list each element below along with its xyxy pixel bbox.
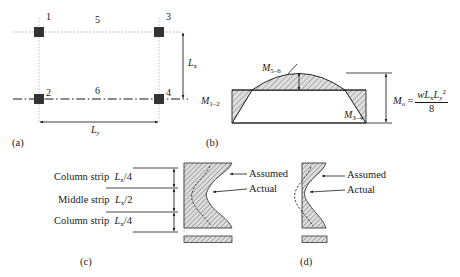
- moment-label-m12: M1–2: [201, 96, 220, 108]
- strip-name: Column strip: [54, 215, 109, 226]
- leader-actual-d: [310, 190, 345, 192]
- strip-label-6: 6: [95, 86, 100, 96]
- figure-canvas: [0, 0, 460, 277]
- annotation-assumed-c: Assumed: [249, 169, 288, 180]
- node-3-marker: [154, 27, 164, 37]
- panel-caption-b: (b): [206, 137, 218, 148]
- dimension-label-ly: Ly: [91, 125, 100, 137]
- strip-name: Column strip: [54, 171, 109, 182]
- strip-row-column-bottom: Column strip Lx/4: [54, 216, 132, 228]
- panel-caption-c: (c): [80, 256, 92, 267]
- moment-label-m34: M3–4: [344, 110, 363, 122]
- strip-name: Middle strip: [58, 194, 110, 205]
- strip-row-middle: Middle strip Lx/2: [58, 195, 132, 207]
- annotation-actual-d: Actual: [347, 185, 375, 196]
- support-bar-d: [302, 236, 327, 243]
- moment-region-parabola: [252, 74, 345, 91]
- node-label-4: 4: [166, 88, 171, 98]
- node-4-marker: [154, 94, 164, 104]
- node-label-3: 3: [166, 12, 171, 22]
- panel-b-graphics: [232, 64, 392, 123]
- distribution-shape-d: [302, 163, 326, 228]
- node-1-marker: [34, 27, 44, 37]
- annotation-assumed-d: Assumed: [347, 170, 386, 181]
- node-label-2: 2: [46, 88, 51, 98]
- strip-row-column-top: Column strip Lx/4: [54, 172, 132, 184]
- engineering-figure: 1 2 3 4 5 6 Lx Ly M1–2 M5–6 M3–4 Mo=wLxL…: [0, 0, 460, 277]
- equation-denominator: 8: [415, 103, 448, 114]
- moment-label-m56: M5–6: [262, 63, 281, 75]
- dimension-label-lx: Lx: [188, 58, 197, 70]
- panel-caption-d: (d): [300, 256, 312, 267]
- panel-a-graphics: [13, 18, 188, 122]
- node-label-1: 1: [46, 12, 51, 22]
- total-moment-equation: Mo=wLxLy28: [393, 89, 448, 114]
- leader-m56: [288, 64, 297, 74]
- annotation-actual-c: Actual: [249, 184, 277, 195]
- equation-numerator: wLxLy2: [415, 89, 448, 103]
- node-2-marker: [34, 94, 44, 104]
- support-bar-c: [184, 236, 232, 243]
- equation-equals: =: [407, 95, 413, 106]
- panel-caption-a: (a): [12, 137, 24, 148]
- equation-fraction: wLxLy28: [415, 89, 448, 114]
- strip-label-5: 5: [95, 15, 100, 25]
- leader-actual-c: [213, 189, 247, 192]
- panel-d-graphics: [295, 163, 345, 243]
